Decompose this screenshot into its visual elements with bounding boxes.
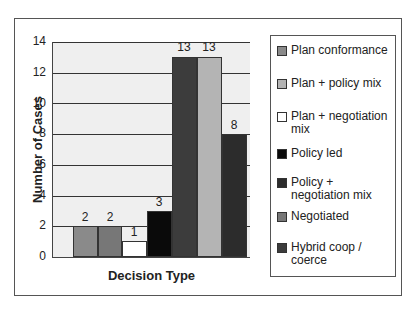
y-tick: 12: [16, 65, 46, 79]
legend-swatch-icon: [277, 243, 287, 253]
legend-label: Hybrid coop / coerce: [291, 241, 377, 267]
y-tick: 0: [16, 249, 46, 263]
legend-label: Plan conformance: [291, 44, 388, 57]
y-axis-title: Number of Cases: [30, 85, 45, 215]
bar-hybrid: [222, 134, 247, 257]
legend-label: Plan + negotiation mix: [291, 110, 393, 136]
legend-item: Plan + negotiation mix: [277, 110, 393, 136]
y-axis: [52, 42, 53, 257]
bar-value-label: 8: [222, 118, 246, 132]
legend-label: Plan + policy mix: [291, 77, 381, 90]
plot-area: 2 2 1 3 13 13 8: [53, 42, 250, 257]
bar-value-label: 3: [147, 195, 171, 209]
bar-value-label: 1: [122, 225, 146, 239]
legend-item: Policy led: [277, 147, 342, 160]
bar-negotiated: [197, 57, 222, 257]
bar-policy-led: [147, 211, 172, 257]
legend-label: Policy led: [291, 147, 342, 160]
legend-swatch-icon: [277, 149, 287, 159]
legend-swatch-icon: [277, 212, 287, 222]
y-tick: 14: [16, 34, 46, 48]
legend-swatch-icon: [277, 79, 287, 89]
legend-label: Negotiated: [291, 210, 349, 223]
bar-plan-negotiation-mix: [122, 241, 147, 257]
legend-item: Negotiated: [277, 210, 349, 223]
bar-plan-conformance: [73, 226, 98, 257]
legend-swatch-icon: [277, 112, 287, 122]
bar-value-label: 2: [73, 210, 97, 224]
legend-item: Plan + policy mix: [277, 77, 381, 90]
legend-item: Hybrid coop / coerce: [277, 241, 377, 267]
bar-policy-negotiation-mix: [172, 57, 197, 257]
legend-item: Policy + negotiation mix: [277, 176, 387, 202]
bar-plan-policy-mix: [98, 226, 122, 257]
bar-value-label: 13: [197, 40, 221, 54]
legend-label: Policy + negotiation mix: [291, 176, 387, 202]
legend: Plan conformance Plan + policy mix Plan …: [270, 35, 396, 277]
x-axis: [52, 257, 250, 258]
bar-value-label: 13: [172, 40, 196, 54]
x-axis-title: Decision Type: [53, 268, 250, 283]
y-tick: 2: [16, 218, 46, 232]
legend-item: Plan conformance: [277, 44, 388, 57]
bar-value-label: 2: [98, 210, 122, 224]
legend-swatch-icon: [277, 46, 287, 56]
legend-swatch-icon: [277, 178, 287, 188]
